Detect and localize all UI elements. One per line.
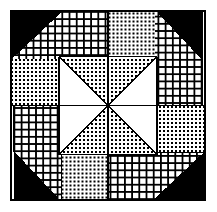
quilt-block-pattern: Pinwheel Quilt Block Square quilt block … [0, 0, 217, 212]
figure-root: Pinwheel Quilt Block Square quilt block … [0, 0, 217, 212]
center-pinwheel [59, 57, 157, 155]
center-wedge-spokes [59, 57, 157, 155]
